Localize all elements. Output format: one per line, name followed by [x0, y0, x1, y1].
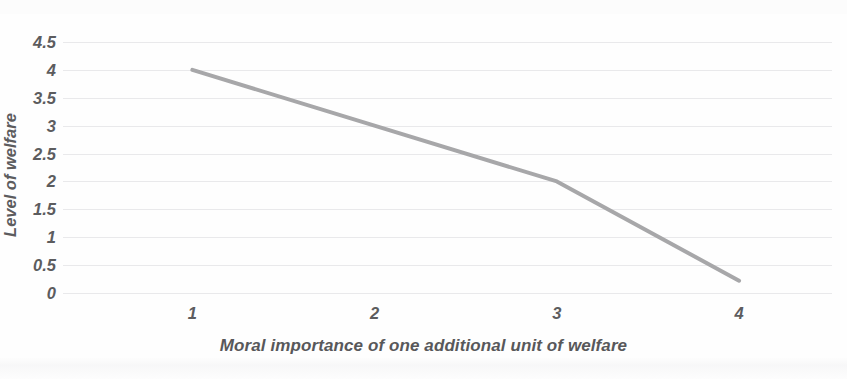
y-tick-label: 3.5 — [0, 90, 56, 107]
y-tick-label: 0.5 — [0, 257, 56, 274]
gridline — [63, 293, 832, 294]
x-tick-label: 4 — [709, 305, 769, 322]
x-tick-label: 1 — [162, 305, 222, 322]
x-tick-label: 2 — [345, 305, 405, 322]
scan-artifact-bottom — [0, 358, 847, 379]
scan-artifact-top — [0, 0, 847, 14]
x-axis-title: Moral importance of one additional unit … — [0, 336, 847, 356]
y-tick-label: 0 — [0, 285, 56, 302]
chart-screenshot: 00.511.522.533.544.5 Level of welfare 12… — [0, 0, 847, 379]
y-axis-title: Level of welfare — [1, 113, 20, 237]
x-tick-label: 3 — [527, 305, 587, 322]
y-tick-label: 4.5 — [0, 34, 56, 51]
plot-area — [63, 42, 832, 293]
y-tick-label: 4 — [0, 62, 56, 79]
data-series-line — [63, 42, 832, 293]
